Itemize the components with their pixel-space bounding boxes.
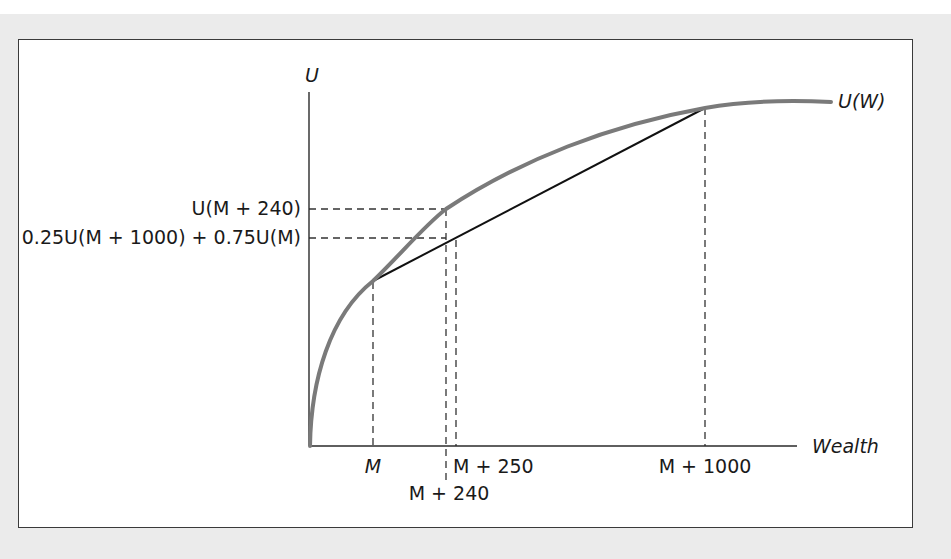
dashed-guides <box>309 108 705 481</box>
y-tick-u-m-240: U(M + 240) <box>192 197 301 219</box>
curve-label: U(W) <box>838 90 886 112</box>
x-axis-label: Wealth <box>812 435 879 457</box>
y-axis-label: U <box>305 64 319 86</box>
x-tick-m-1000: M + 1000 <box>659 455 752 477</box>
axes <box>309 92 797 446</box>
utility-diagram: U Wealth U(W) U(M + 240) 0.25U(M + 1000)… <box>0 0 951 559</box>
x-tick-m-250: M + 250 <box>453 455 534 477</box>
x-tick-m: M <box>365 455 381 477</box>
x-tick-m-240: M + 240 <box>409 482 490 504</box>
chord-line <box>373 108 705 281</box>
y-tick-expected-utility: 0.25U(M + 1000) + 0.75U(M) <box>22 226 301 248</box>
